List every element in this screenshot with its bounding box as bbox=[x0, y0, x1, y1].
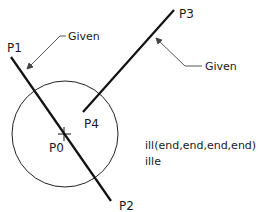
given-right-label: Given bbox=[205, 60, 237, 73]
given-left-label: Given bbox=[68, 30, 100, 43]
leader-right bbox=[156, 38, 202, 66]
line-p3-p4 bbox=[83, 10, 174, 112]
label-p4: P4 bbox=[84, 117, 99, 131]
diagram-canvas: P1 P3 P4 P0 P2 Given Given ill(end,end,e… bbox=[0, 0, 277, 212]
label-p1: P1 bbox=[7, 41, 22, 55]
command-line-2: ille bbox=[145, 155, 161, 168]
label-p0: P0 bbox=[49, 141, 64, 155]
command-line-1: ill(end,end,end,end) bbox=[145, 139, 256, 152]
leader-left bbox=[27, 36, 66, 69]
label-p3: P3 bbox=[179, 7, 194, 21]
label-p2: P2 bbox=[119, 199, 134, 212]
